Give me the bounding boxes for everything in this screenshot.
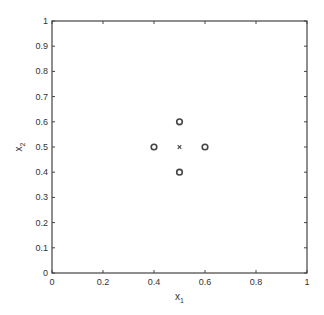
x-tick-labels: 00.20.40.60.81: [49, 277, 309, 287]
circle-marker: [177, 169, 183, 175]
y-tick-label: 0.3: [35, 192, 48, 202]
x-tick-label: 1: [304, 277, 309, 287]
y-axis-label: x2: [13, 142, 26, 151]
y-tick-label: 0.2: [35, 218, 48, 228]
scatter-plot: 00.20.40.60.81 00.10.20.30.40.50.60.70.8…: [0, 0, 324, 315]
y-tick-label: 0.7: [35, 92, 48, 102]
y-tick-labels: 00.10.20.30.40.50.60.70.80.91: [35, 16, 48, 278]
y-tick-label: 0.8: [35, 66, 48, 76]
circle-marker: [151, 144, 157, 150]
y-tick-label: 0.1: [35, 243, 48, 253]
data-markers: [151, 119, 208, 175]
x-tick-label: 0.8: [250, 277, 263, 287]
circle-marker: [202, 144, 208, 150]
y-tick-label: 0: [43, 268, 48, 278]
circle-marker: [177, 119, 183, 125]
y-tick-label: 0.4: [35, 167, 48, 177]
y-tick-label: 1: [43, 16, 48, 26]
x-tick-label: 0.4: [148, 277, 161, 287]
x-axis-label: x1: [175, 291, 184, 304]
y-tick-label: 0.9: [35, 41, 48, 51]
x-tick-label: 0.6: [199, 277, 212, 287]
y-tick-label: 0.6: [35, 117, 48, 127]
y-tick-label: 0.5: [35, 142, 48, 152]
x-tick-label: 0: [49, 277, 54, 287]
x-tick-label: 0.2: [97, 277, 110, 287]
